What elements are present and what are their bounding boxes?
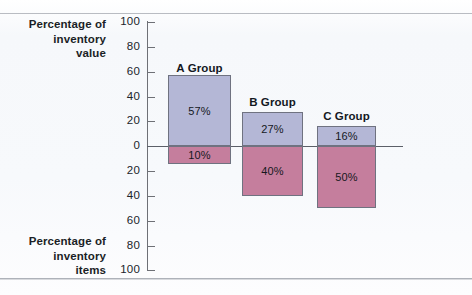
y-axis-tick-label: 80 [100, 239, 140, 253]
y-axis-tick-mark [147, 97, 155, 98]
bar-group-label: A Group [168, 62, 231, 74]
y-axis-tick-mark [147, 47, 155, 48]
bar-group: A Group57%10% [168, 0, 231, 295]
y-axis-tick-label-text: 40 [104, 90, 140, 102]
bar-value-label: 27% [261, 123, 284, 135]
y-axis-tick-label: 20 [100, 164, 140, 178]
y-axis-tick-label: 40 [100, 90, 140, 104]
upper-axis-caption-line-3: value [14, 46, 106, 61]
y-axis-tick-label-text: 0 [104, 139, 140, 151]
y-axis-tick-label: 40 [100, 189, 140, 203]
y-axis-tick-label-text: 60 [104, 214, 140, 226]
bar-group-label: B Group [242, 96, 303, 108]
y-axis-tick-label: 20 [100, 114, 140, 128]
y-axis-tick-label: 0 [100, 139, 140, 153]
y-axis-tick-label: 60 [100, 214, 140, 228]
lower-axis-caption-line-2: inventory [14, 249, 106, 264]
bar-items-label: 50% [335, 171, 358, 183]
y-axis-tick-label: 100 [100, 15, 140, 29]
bar-group: C Group16%50% [317, 0, 376, 295]
lower-axis-caption-line-3: items [14, 263, 106, 278]
y-axis-tick-mark [147, 196, 155, 197]
bar-segment-inventory-items: 10% [168, 146, 231, 164]
y-axis-tick-label-text: 80 [104, 40, 140, 52]
bar-segment-inventory-value: 57% [168, 75, 231, 146]
bar-segment-inventory-items: 40% [242, 146, 303, 196]
y-axis-tick-label-text: 40 [104, 189, 140, 201]
y-axis-tick-mark [147, 221, 155, 222]
y-axis-tick-label-text: 20 [104, 114, 140, 126]
bar-segment-inventory-value: 16% [317, 126, 376, 146]
upper-axis-caption-line-2: inventory [14, 32, 106, 47]
y-axis-tick-label-text: 80 [104, 239, 140, 251]
y-axis-tick-label-text: 60 [104, 65, 140, 77]
y-axis-tick-label-text: 20 [104, 164, 140, 176]
bar-group: B Group27%40% [242, 0, 303, 295]
lower-axis-caption: Percentage of inventory items [14, 234, 106, 278]
y-axis-tick-mark [147, 72, 155, 73]
y-axis-tick-label: 100 [100, 263, 140, 277]
top-divider-rule [0, 13, 472, 14]
bottom-divider-rule-shadow [0, 279, 472, 280]
y-axis-tick-label: 60 [100, 65, 140, 79]
y-axis-tick-mark [147, 246, 155, 247]
lower-axis-caption-line-1: Percentage of [14, 234, 106, 249]
bar-value-label: 57% [188, 105, 211, 117]
abc-analysis-chart: Percentage of inventory value Percentage… [0, 0, 472, 295]
upper-axis-caption: Percentage of inventory value [14, 17, 106, 61]
y-axis-tick-label-text: 100 [104, 263, 140, 275]
bar-segment-inventory-value: 27% [242, 112, 303, 146]
bar-segment-inventory-items: 50% [317, 146, 376, 208]
upper-axis-caption-line-1: Percentage of [14, 17, 106, 32]
bar-items-label: 10% [188, 149, 211, 161]
bar-group-label: C Group [317, 110, 376, 122]
bar-items-label: 40% [261, 165, 284, 177]
bar-value-label: 16% [335, 130, 358, 142]
y-axis-tick-label-text: 100 [104, 15, 140, 27]
y-axis-tick-label: 80 [100, 40, 140, 54]
y-axis-tick-mark [147, 22, 155, 23]
y-axis-tick-mark [147, 270, 155, 271]
y-axis-tick-mark [147, 171, 155, 172]
y-axis-tick-mark [147, 121, 155, 122]
